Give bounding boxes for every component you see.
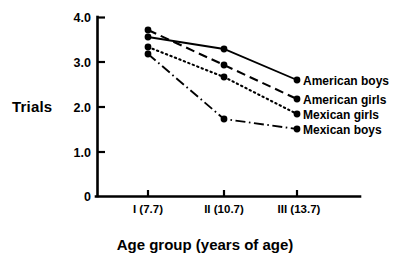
series-line-american-boys <box>148 37 297 80</box>
legend-label-mexican-boys: Mexican boys <box>303 123 382 137</box>
x-axis-title: Age group (years of age) <box>117 236 294 253</box>
data-point <box>294 77 301 84</box>
legend-label-american-girls: American girls <box>303 93 387 107</box>
legend-item-mexican-boys: Mexican boys <box>303 123 382 137</box>
x-tick-label-1: I (7.7) <box>133 203 163 215</box>
series-mexican-girls <box>145 44 301 118</box>
y-tick-label-0: 0 <box>84 190 91 204</box>
data-point <box>221 46 228 53</box>
y-tick-label-4: 4.0 <box>74 11 91 25</box>
legend: American boys American girls Mexican gir… <box>303 74 389 137</box>
y-tick-label-1: 1.0 <box>74 146 91 160</box>
series-line-mexican-girls <box>148 47 297 114</box>
legend-label-american-boys: American boys <box>303 74 389 88</box>
chart-plot-area: 4.0 3.0 2.0 1.0 0 Trials I (7.7) II (10.… <box>0 0 404 266</box>
chart-figure: 4.0 3.0 2.0 1.0 0 Trials I (7.7) II (10.… <box>0 0 404 266</box>
data-point <box>294 111 301 118</box>
x-tick-label-2: II (10.7) <box>204 203 244 215</box>
data-point <box>294 126 301 133</box>
data-point <box>221 74 228 81</box>
legend-item-american-boys: American boys <box>303 74 389 88</box>
data-point <box>145 44 152 51</box>
series-american-girls <box>145 27 301 103</box>
legend-label-mexican-girls: Mexican girls <box>303 108 379 122</box>
data-point <box>145 27 152 34</box>
data-point <box>145 34 152 41</box>
data-point <box>145 51 152 58</box>
y-tick-label-2: 2.0 <box>74 101 91 115</box>
data-point <box>221 62 228 69</box>
y-tick-label-3: 3.0 <box>74 56 91 70</box>
data-point <box>221 116 228 123</box>
y-axis-title: Trials <box>12 98 52 115</box>
legend-item-mexican-girls: Mexican girls <box>303 108 379 122</box>
data-point <box>294 96 301 103</box>
legend-item-american-girls: American girls <box>303 93 387 107</box>
x-tick-label-3: III (13.7) <box>278 203 321 215</box>
